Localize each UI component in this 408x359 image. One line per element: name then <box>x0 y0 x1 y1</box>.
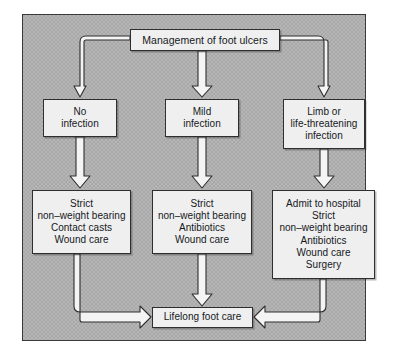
node-line: Strict <box>70 198 93 210</box>
node-line: No <box>74 106 87 118</box>
node-line: infection <box>61 118 99 130</box>
arrow-mild-infection-to-tx <box>192 137 212 188</box>
node-line: Wound care <box>175 234 229 246</box>
arrow-tx-limb-infection-to-lifelong <box>254 279 326 328</box>
arrow-tx-no-infection-to-lifelong <box>74 254 151 328</box>
node-title-label: Management of foot ulcers <box>142 34 268 46</box>
node-treatment-mild-infection: Strict non–weight bearing Antibiotics Wo… <box>152 190 252 254</box>
node-line: Antibiotics <box>179 222 225 234</box>
arrow-title-to-no-infection <box>74 36 130 97</box>
node-line: infection <box>305 130 343 142</box>
node-outcome-label: Lifelong foot care <box>164 311 242 323</box>
node-line: Wound care <box>296 247 350 259</box>
arrow-title-to-mild-infection <box>192 51 212 97</box>
node-line: life-threatening <box>291 118 358 130</box>
arrow-tx-mild-to-lifelong <box>192 254 212 306</box>
node-line: non–weight bearing <box>158 210 246 222</box>
node-line: infection <box>183 118 221 130</box>
node-line: Mild <box>193 106 212 118</box>
node-line: Surgery <box>306 259 341 271</box>
node-limb-or-life-threatening-infection: Limb or life-threatening infection <box>283 99 365 149</box>
node-line: Limb or <box>307 106 341 118</box>
arrow-no-infection-to-tx <box>70 137 90 188</box>
node-line: Contact casts <box>51 222 112 234</box>
arrow-limb-infection-to-tx <box>314 149 334 188</box>
connector-layer <box>0 0 408 359</box>
node-no-infection: No infection <box>43 99 117 137</box>
node-line: non–weight bearing <box>37 210 125 222</box>
arrow-title-to-limb-infection <box>280 36 330 97</box>
node-lifelong-foot-care: Lifelong foot care <box>152 307 253 328</box>
node-line: Antibiotics <box>300 235 346 247</box>
node-management-of-foot-ulcers: Management of foot ulcers <box>130 29 280 51</box>
node-treatment-limb-infection: Admit to hospital Strict non–weight bear… <box>272 190 375 279</box>
node-line: Strict <box>312 210 335 222</box>
node-mild-infection: Mild infection <box>165 99 239 137</box>
node-line: Admit to hospital <box>286 198 361 210</box>
node-line: Wound care <box>54 234 108 246</box>
node-line: Strict <box>190 198 213 210</box>
node-treatment-no-infection: Strict non–weight bearing Contact casts … <box>32 190 131 254</box>
diagram-canvas: Management of foot ulcers No infection M… <box>0 0 408 359</box>
node-line: non–weight bearing <box>279 222 367 234</box>
